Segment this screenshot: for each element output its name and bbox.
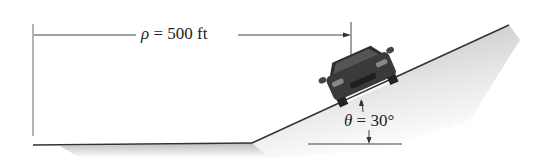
radius-value: 500 ft bbox=[167, 24, 207, 43]
angle-value: 30° bbox=[370, 111, 394, 130]
radius-equals: = bbox=[149, 24, 167, 43]
angle-label: θ = 30° bbox=[341, 112, 397, 130]
radius-label: ρ = 500 ft bbox=[138, 25, 210, 43]
diagram-graphics bbox=[0, 0, 543, 162]
angle-equals: = bbox=[352, 111, 370, 130]
ground-shading bbox=[60, 25, 520, 158]
rho-symbol: ρ bbox=[141, 24, 149, 43]
road-car-diagram: ρ = 500 ft θ = 30° bbox=[0, 0, 543, 162]
